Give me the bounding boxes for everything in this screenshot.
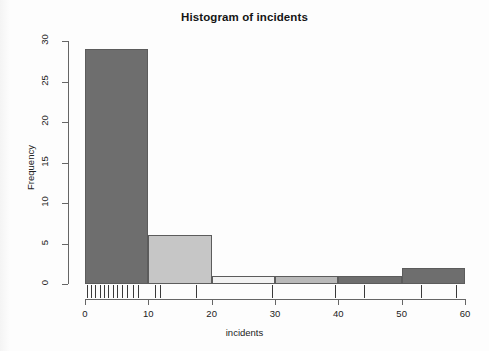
x-axis-tick-label: 0	[70, 308, 100, 319]
rug-mark	[133, 285, 134, 298]
y-axis-title: Frequency	[25, 128, 36, 208]
rug-mark	[364, 285, 365, 298]
rug-mark	[456, 285, 457, 298]
histogram-bar	[402, 268, 465, 284]
y-axis-tick	[62, 122, 68, 123]
x-axis-tick-label: 40	[323, 308, 353, 319]
x-axis-tick	[338, 299, 339, 305]
y-axis-tick	[62, 244, 68, 245]
histogram-bar	[148, 235, 211, 284]
x-axis-tick	[148, 299, 149, 305]
y-axis-tick-label: 10	[39, 192, 50, 212]
histogram-bar	[212, 276, 275, 284]
rug-mark	[113, 285, 114, 298]
rug-plot	[85, 285, 465, 298]
rug-mark	[272, 285, 273, 298]
y-axis-tick	[62, 41, 68, 42]
rug-mark	[127, 285, 128, 298]
chart-title: Histogram of incidents	[0, 11, 489, 23]
rug-mark	[421, 285, 422, 298]
x-axis-title: incidents	[0, 327, 489, 338]
rug-mark	[91, 285, 92, 298]
x-axis-tick	[85, 299, 86, 305]
x-axis-tick	[402, 299, 403, 305]
rug-mark	[155, 285, 156, 298]
y-axis-tick	[62, 203, 68, 204]
rug-mark	[117, 285, 118, 298]
x-axis-tick	[275, 299, 276, 305]
y-axis-tick-label: 0	[39, 273, 50, 293]
rug-mark	[160, 285, 161, 298]
x-axis-tick-label: 10	[133, 308, 163, 319]
y-axis-tick-label: 30	[39, 30, 50, 50]
plot-area	[85, 41, 465, 284]
rug-mark	[138, 285, 139, 298]
y-axis-tick	[62, 163, 68, 164]
y-axis-tick-label: 25	[39, 70, 50, 90]
histogram-bar	[338, 276, 401, 284]
y-axis-tick	[62, 82, 68, 83]
histogram-bar	[85, 49, 148, 284]
y-axis-tick-label: 5	[39, 232, 50, 252]
x-axis-tick-label: 50	[387, 308, 417, 319]
x-axis-tick-label: 60	[450, 308, 480, 319]
x-axis-tick	[465, 299, 466, 305]
histogram-figure: Histogram of incidents 051015202530 Freq…	[0, 0, 489, 351]
x-axis-tick-label: 30	[260, 308, 290, 319]
page-edge-shading	[0, 0, 10, 351]
rug-mark	[122, 285, 123, 298]
rug-mark	[104, 285, 105, 298]
rug-mark	[100, 285, 101, 298]
rug-mark	[335, 285, 336, 298]
rug-mark	[108, 285, 109, 298]
rug-mark	[95, 285, 96, 298]
y-axis-tick-label: 15	[39, 151, 50, 171]
histogram-bar	[275, 276, 338, 284]
y-axis-tick-label: 20	[39, 111, 50, 131]
x-axis-tick	[212, 299, 213, 305]
y-axis-line	[68, 41, 69, 284]
rug-mark	[196, 285, 197, 298]
rug-mark	[87, 285, 88, 298]
x-axis-tick-label: 20	[197, 308, 227, 319]
y-axis-tick	[62, 284, 68, 285]
